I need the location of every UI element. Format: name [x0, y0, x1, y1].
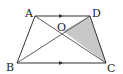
side-ab [17, 16, 35, 63]
parallel-mark-ad-icon [59, 14, 63, 18]
label-d: D [92, 7, 101, 20]
label-c: C [107, 62, 115, 74]
shaded-triangle-ocd [63, 16, 106, 63]
label-o: O [57, 21, 66, 34]
label-a: A [24, 7, 34, 20]
parallel-mark-bc-icon [59, 61, 63, 65]
diagram-canvas: A D O B C [0, 0, 123, 74]
trapezoid-diagram: A D O B C [0, 0, 123, 74]
label-b: B [6, 61, 14, 74]
